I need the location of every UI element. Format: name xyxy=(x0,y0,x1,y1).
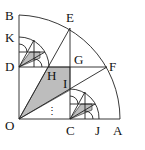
label-D: D xyxy=(5,59,14,74)
label-G: G xyxy=(74,52,83,67)
label-H: H xyxy=(47,68,56,83)
label-E: E xyxy=(66,10,74,25)
label-A: A xyxy=(113,123,123,138)
upper-mini-arc1 xyxy=(19,44,27,52)
label-B: B xyxy=(5,8,14,23)
label-C: C xyxy=(66,123,75,138)
label-F: F xyxy=(109,59,116,74)
ellipsis: ⋮ xyxy=(47,105,57,116)
label-I: I xyxy=(63,76,67,91)
label-O: O xyxy=(5,118,14,133)
geometry-figure: ⋮ B E K D G F H I O C J A xyxy=(0,0,145,150)
label-J: J xyxy=(95,123,100,138)
lower-mini-arc1 xyxy=(70,96,78,104)
label-K: K xyxy=(5,30,15,45)
